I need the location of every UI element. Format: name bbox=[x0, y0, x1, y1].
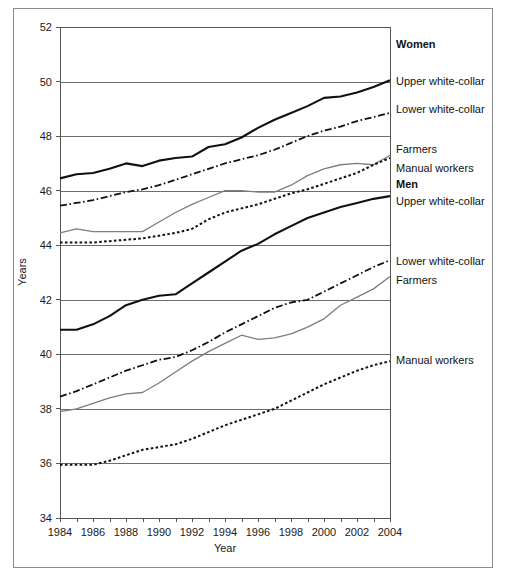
label-men-lower-white-collar: Lower white-collar bbox=[396, 255, 485, 267]
line-chart-svg: 34363840424446485052 1984198619881990199… bbox=[0, 0, 505, 581]
series-line-7 bbox=[60, 361, 390, 465]
y-tick-label: 40 bbox=[40, 348, 52, 360]
y-tick-label: 42 bbox=[40, 294, 52, 306]
y-tick-label: 52 bbox=[40, 21, 52, 33]
y-tick-label: 48 bbox=[40, 130, 52, 142]
y-axis-title: Years bbox=[16, 258, 28, 286]
y-tick-label: 38 bbox=[40, 403, 52, 415]
series-line-5 bbox=[60, 260, 390, 396]
x-tick-labels: 1984198619881990199219941996199820002002… bbox=[48, 526, 402, 538]
x-tick-label: 1994 bbox=[213, 526, 237, 538]
label-men-manual-workers: Manual workers bbox=[396, 354, 474, 366]
x-tick-label: 1988 bbox=[114, 526, 138, 538]
series-labels-group: WomenUpper white-collarLower white-colla… bbox=[396, 38, 485, 366]
y-tick-label: 46 bbox=[40, 185, 52, 197]
x-tick-label: 1986 bbox=[81, 526, 105, 538]
label-women-manual-workers: Manual workers bbox=[396, 162, 474, 174]
y-tick-labels: 34363840424446485052 bbox=[40, 21, 52, 524]
y-tick-label: 50 bbox=[40, 76, 52, 88]
y-tick-label: 44 bbox=[40, 239, 52, 251]
series-group bbox=[60, 80, 390, 465]
x-tick-label: 1990 bbox=[147, 526, 171, 538]
chart-figure: 34363840424446485052 1984198619881990199… bbox=[0, 0, 505, 581]
series-line-2 bbox=[60, 155, 390, 233]
x-tick-label: 1992 bbox=[180, 526, 204, 538]
x-tick-label: 2004 bbox=[378, 526, 402, 538]
plot-container: 34363840424446485052 1984198619881990199… bbox=[0, 0, 505, 581]
label-women-group: Women bbox=[396, 38, 436, 50]
label-men-upper-white-collar: Upper white-collar bbox=[396, 195, 485, 207]
y-tick-label: 36 bbox=[40, 457, 52, 469]
x-axis-title: Year bbox=[214, 542, 237, 554]
label-women-farmers: Farmers bbox=[396, 143, 437, 155]
gridlines-group bbox=[60, 83, 390, 464]
x-tick-label: 1984 bbox=[48, 526, 72, 538]
x-tick-label: 1996 bbox=[246, 526, 270, 538]
label-women-upper-white-collar: Upper white-collar bbox=[396, 75, 485, 87]
series-line-3 bbox=[60, 158, 390, 243]
x-tick-label: 2000 bbox=[312, 526, 336, 538]
label-men-farmers: Farmers bbox=[396, 274, 437, 286]
y-tick-label: 34 bbox=[40, 512, 52, 524]
series-line-4 bbox=[60, 196, 390, 330]
label-men-group: Men bbox=[396, 178, 418, 190]
x-tick-label: 2002 bbox=[345, 526, 369, 538]
tickmarks-group bbox=[56, 27, 391, 522]
x-tick-label: 1998 bbox=[279, 526, 303, 538]
axes-group bbox=[60, 27, 391, 519]
label-women-lower-white-collar: Lower white-collar bbox=[396, 103, 485, 115]
series-line-6 bbox=[60, 277, 390, 412]
